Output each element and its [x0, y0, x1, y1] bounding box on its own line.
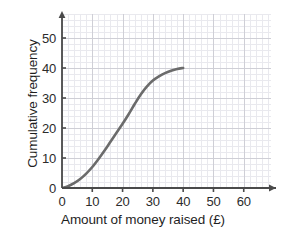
- x-axis-title: Amount of money raised (£): [0, 212, 286, 227]
- x-axis-arrow-icon: [269, 185, 276, 192]
- x-tick-label-60: 60: [237, 194, 251, 209]
- x-tick-label-30: 30: [146, 194, 160, 209]
- x-tick-label-20: 20: [116, 194, 130, 209]
- x-tick-label-10: 10: [85, 194, 99, 209]
- x-tick-label-40: 40: [176, 194, 190, 209]
- x-tick-label-0: 0: [58, 194, 65, 209]
- y-axis-title: Cumulative frequency: [25, 24, 40, 184]
- plot-background: [62, 14, 271, 188]
- x-tick-label-50: 50: [206, 194, 220, 209]
- cumulative-frequency-chart: 0102030405060 01020304050 Amount of mone…: [0, 0, 286, 237]
